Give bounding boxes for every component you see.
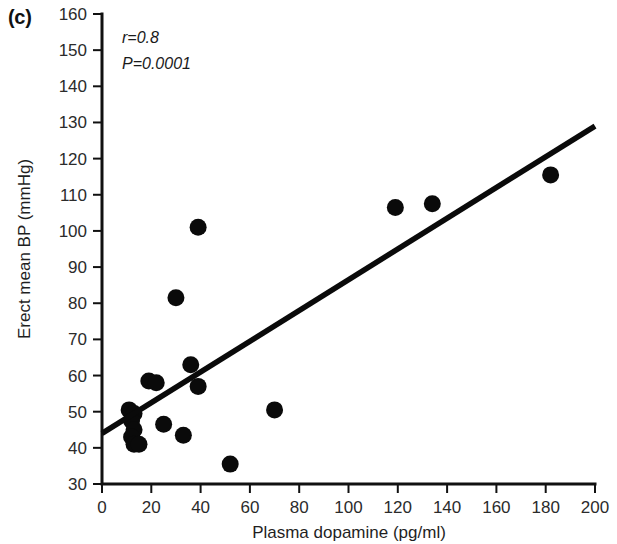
- data-point: [130, 436, 147, 453]
- y-tick-label: 50: [68, 403, 87, 422]
- data-point: [190, 219, 207, 236]
- y-tick-label: 110: [60, 186, 87, 205]
- x-tick-label: 120: [384, 498, 412, 517]
- scatter-plot-canvas: 30405060708090100110120130140150160 0204…: [0, 0, 617, 544]
- y-tick-label: 80: [68, 294, 87, 313]
- y-axis-label: Erect mean BP (mmHg): [15, 159, 34, 339]
- y-tick-label: 60: [68, 367, 87, 386]
- data-point: [167, 289, 184, 306]
- data-point: [190, 378, 207, 395]
- x-tick-label: 200: [581, 498, 609, 517]
- y-tick-label: 100: [59, 222, 87, 241]
- x-tick-label: 0: [97, 498, 106, 517]
- regression-line: [102, 126, 595, 433]
- y-tick-label: 160: [59, 5, 87, 24]
- data-point: [387, 199, 404, 216]
- pvalue-annotation: P=0.0001: [122, 55, 191, 72]
- data-points: [121, 166, 560, 472]
- x-tick-label: 100: [334, 498, 362, 517]
- y-tick-label: 30: [68, 475, 87, 494]
- data-point: [266, 401, 283, 418]
- x-tick-label: 80: [290, 498, 309, 517]
- y-axis-ticks: 30405060708090100110120130140150160: [59, 5, 102, 494]
- y-tick-label: 120: [59, 150, 87, 169]
- data-point: [155, 416, 172, 433]
- y-tick-label: 140: [59, 77, 87, 96]
- y-tick-label: 150: [59, 41, 87, 60]
- data-point: [182, 356, 199, 373]
- x-tick-label: 60: [240, 498, 259, 517]
- correlation-annotation: r=0.8: [122, 29, 159, 46]
- y-tick-label: 70: [68, 330, 87, 349]
- data-point: [175, 427, 192, 444]
- x-axis-label: Plasma dopamine (pg/ml): [252, 523, 446, 542]
- y-tick-label: 40: [68, 439, 87, 458]
- data-point: [424, 195, 441, 212]
- x-tick-label: 180: [532, 498, 560, 517]
- x-tick-label: 40: [191, 498, 210, 517]
- data-point: [542, 166, 559, 183]
- y-tick-label: 90: [68, 258, 87, 277]
- x-axis-ticks: 020406080100120140160180200: [97, 484, 609, 517]
- data-point: [148, 374, 165, 391]
- x-tick-label: 20: [142, 498, 161, 517]
- axis-lines: [102, 14, 595, 484]
- scatter-plot-figure: (c) 30405060708090100110120130140150160 …: [0, 0, 617, 544]
- x-tick-label: 160: [482, 498, 510, 517]
- data-point: [222, 456, 239, 473]
- y-tick-label: 130: [59, 113, 87, 132]
- x-tick-label: 140: [433, 498, 461, 517]
